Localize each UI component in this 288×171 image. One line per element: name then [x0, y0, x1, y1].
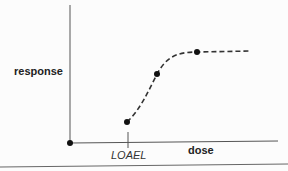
data-point-loael: [124, 119, 130, 125]
chart-plot-area: [0, 0, 288, 171]
data-point-plateau: [194, 49, 200, 55]
x-axis: [70, 141, 278, 143]
loael-tick-label: LOAEL: [111, 149, 146, 161]
dose-response-curve: [127, 51, 250, 122]
x-axis-label: dose: [188, 144, 214, 156]
y-axis-label: response: [14, 65, 63, 77]
data-point-mid: [154, 71, 160, 77]
origin-marker: [67, 140, 73, 146]
dose-response-chart: response dose LOAEL: [0, 0, 288, 171]
bottom-rule: [0, 164, 288, 167]
